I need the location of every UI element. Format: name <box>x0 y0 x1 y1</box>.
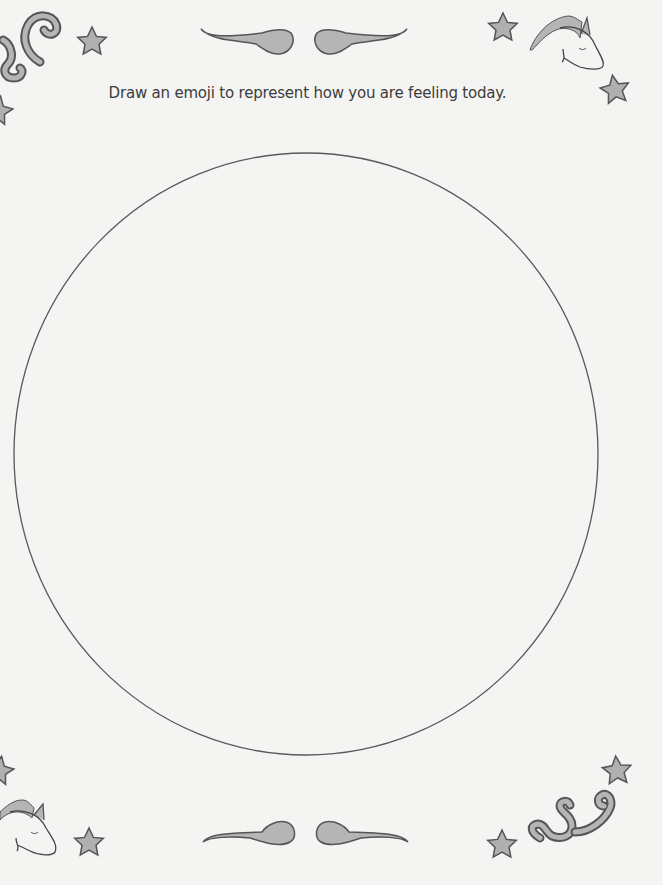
drawing-circle[interactable] <box>14 153 598 755</box>
swirl-icon <box>3 16 57 78</box>
worksheet-page: Draw an emoji to represent how you are f… <box>0 0 663 885</box>
unicorn-head-icon <box>530 16 603 69</box>
swirl-icon <box>532 794 611 838</box>
flourish-icon <box>201 29 408 845</box>
decorations-layer <box>0 0 663 885</box>
star-icon <box>0 13 632 857</box>
unicorn-head-icon <box>0 800 56 855</box>
prompt-text: Draw an emoji to represent how you are f… <box>0 84 615 102</box>
